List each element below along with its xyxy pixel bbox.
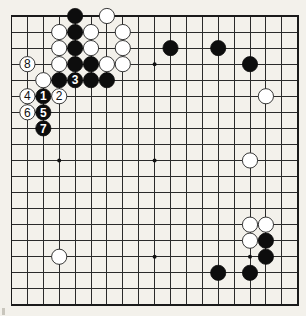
black-stone-circle [68, 57, 83, 72]
white-stone [52, 24, 67, 39]
black-stone: 3 [68, 73, 83, 88]
white-stone [242, 217, 257, 232]
move-number-label: 8 [24, 57, 31, 71]
black-stone [258, 233, 273, 248]
white-stone [83, 24, 98, 39]
white-stone [258, 89, 273, 104]
black-stone [68, 57, 83, 72]
scan-artifact [2, 308, 5, 315]
black-stone [68, 8, 83, 23]
black-stone-circle [83, 73, 98, 88]
black-stone-circle [211, 265, 226, 280]
black-stone [242, 265, 257, 280]
white-stone [99, 8, 114, 23]
white-stone: 6 [20, 105, 35, 120]
move-number-label: 5 [40, 106, 47, 120]
black-stone-circle [68, 24, 83, 39]
black-stone [258, 249, 273, 264]
white-stone-circle [83, 24, 98, 39]
star-point [57, 158, 61, 162]
white-stone-circle [242, 217, 257, 232]
white-stone-circle [242, 153, 257, 168]
move-number-label: 3 [72, 73, 79, 87]
black-stone-circle [211, 41, 226, 56]
white-stone-circle [99, 57, 114, 72]
move-number-label: 2 [56, 89, 63, 103]
white-stone-circle [115, 57, 130, 72]
star-point [153, 158, 157, 162]
star-point [153, 62, 157, 66]
move-number-label: 1 [40, 89, 47, 103]
white-stone [242, 233, 257, 248]
white-stone-circle [52, 24, 67, 39]
star-point [153, 255, 157, 259]
black-stone [52, 73, 67, 88]
white-stone-circle [115, 24, 130, 39]
white-stone-circle [99, 8, 114, 23]
black-stone-circle [52, 73, 67, 88]
black-stone [83, 57, 98, 72]
black-stone-circle [68, 8, 83, 23]
black-stone [211, 265, 226, 280]
black-stone-circle [163, 41, 178, 56]
go-board: 83412657 [0, 0, 306, 316]
black-stone-circle [258, 233, 273, 248]
white-stone-circle [52, 249, 67, 264]
black-stone-circle [83, 57, 98, 72]
white-stone: 8 [20, 57, 35, 72]
black-stone-circle [242, 57, 257, 72]
black-stone [163, 41, 178, 56]
white-stone [115, 41, 130, 56]
black-stone: 1 [36, 89, 51, 104]
white-stone [52, 249, 67, 264]
white-stone [242, 153, 257, 168]
black-stone [211, 41, 226, 56]
white-stone-circle [83, 41, 98, 56]
move-number-label: 7 [40, 122, 47, 136]
black-stone-circle [242, 265, 257, 280]
white-stone-circle [36, 73, 51, 88]
white-stone [83, 41, 98, 56]
white-stone [36, 73, 51, 88]
board-background [0, 0, 306, 316]
star-point [248, 255, 252, 259]
white-stone-circle [258, 217, 273, 232]
white-stone [99, 57, 114, 72]
move-number-label: 4 [24, 89, 31, 103]
white-stone-circle [52, 57, 67, 72]
white-stone [52, 57, 67, 72]
white-stone-circle [52, 41, 67, 56]
go-board-diagram: 83412657 19 [0, 0, 306, 316]
black-stone-circle [258, 249, 273, 264]
white-stone [115, 57, 130, 72]
white-stone-circle [242, 233, 257, 248]
black-stone [83, 73, 98, 88]
black-stone [68, 24, 83, 39]
black-stone [68, 41, 83, 56]
white-stone: 4 [20, 89, 35, 104]
black-stone: 7 [36, 121, 51, 136]
white-stone [258, 217, 273, 232]
white-stone-circle [115, 41, 130, 56]
white-stone-circle [258, 89, 273, 104]
black-stone [242, 57, 257, 72]
black-stone-circle [99, 73, 114, 88]
black-stone-circle [68, 41, 83, 56]
black-stone: 5 [36, 105, 51, 120]
black-stone [99, 73, 114, 88]
white-stone [52, 41, 67, 56]
white-stone: 2 [52, 89, 67, 104]
white-stone [115, 24, 130, 39]
move-number-label: 6 [24, 106, 31, 120]
